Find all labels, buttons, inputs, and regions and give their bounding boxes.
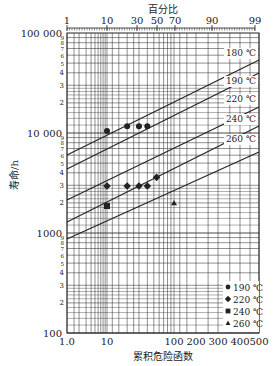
x-tick-label: 100 [164,336,183,347]
y-minor-label: 5 [61,261,65,267]
y-minor-label: 8 [61,140,65,146]
x-axis-title: 累积危险函数 [133,350,193,362]
marker-circle-icon [104,128,110,134]
y-minor-label: 9 [61,235,65,241]
y-axis: 100 00010 000100010023456789234567892345… [21,28,65,339]
y-minor-label: 6 [61,53,65,59]
legend: 190 ℃220 ℃240 ℃260 ℃ [223,281,263,332]
y-tick-label: 100 000 [21,28,62,39]
legend-label: 240 ℃ [233,307,263,317]
y-minor-label: 2 [60,199,64,207]
y-minor-label: 3 [60,182,64,190]
data-points [103,123,177,209]
legend-label: 260 ℃ [233,319,263,329]
marker-square-icon [104,203,110,209]
y-minor-label: 9 [61,135,65,141]
x-tick-label: 400 [230,336,249,347]
legend-label: 220 ℃ [233,295,263,305]
fit-line [67,152,259,239]
marker-circle-icon [226,285,231,290]
y-tick-label: 10 000 [27,128,62,139]
top-tick-label: 30 [131,15,144,26]
fit-line-label: 260 ℃ [226,134,256,144]
top-tick-label: 10 [101,15,114,26]
fit-line-label: 190 ℃ [226,76,256,86]
top-tick-label: 90 [206,15,219,26]
top-axis-title: 百分比 [148,4,178,15]
y-minor-label: 4 [60,69,65,77]
y-minor-label: 3 [60,82,64,90]
y-minor-label: 5 [61,161,65,167]
y-minor-label: 5 [61,61,65,67]
top-percent-axis: 1103050709099 [64,15,262,31]
marker-diamond-icon [135,182,143,190]
marker-diamond-icon [123,182,131,190]
y-minor-label: 7 [61,246,65,252]
fit-line-label: 220 ℃ [226,94,256,104]
legend-label: 190 ℃ [233,283,263,293]
y-axis-title: 寿命/h [8,160,20,190]
marker-circle-icon [136,123,142,129]
marker-square-icon [226,309,231,314]
x-tick-label: 1.0 [59,336,75,347]
y-minor-label: 3 [60,282,64,290]
hazard-plot: 1103050709099 百分比 100 00010 000100010023… [0,0,276,366]
x-tick-label: 500 [249,336,268,347]
y-minor-label: 2 [60,99,64,107]
fit-line-label: 180 ℃ [226,48,256,58]
x-tick-label: 10 [101,336,114,347]
y-minor-label: 4 [60,169,65,177]
marker-diamond-icon [103,182,111,190]
marker-triangle-icon [171,200,177,205]
y-minor-label: 6 [61,253,65,259]
x-axis: 1.010100200300400500 [59,336,269,347]
y-minor-label: 2 [60,299,64,307]
marker-circle-icon [144,123,150,129]
fit-line-label: 240 ℃ [226,114,256,124]
y-minor-label: 7 [61,46,65,52]
marker-circle-icon [124,123,130,129]
x-tick-label: 200 [186,336,205,347]
y-tick-label: 1000 [37,228,62,239]
y-minor-label: 6 [61,153,65,159]
top-tick-label: 50 [151,15,164,26]
y-minor-label: 8 [61,240,65,246]
y-minor-label: 9 [61,35,65,41]
y-minor-label: 7 [61,146,65,152]
x-tick-label: 300 [208,336,227,347]
y-minor-label: 8 [61,40,65,46]
top-tick-label: 99 [249,15,262,26]
top-tick-label: 1 [64,15,70,26]
top-tick-label: 70 [169,15,182,26]
y-minor-label: 4 [60,269,65,277]
